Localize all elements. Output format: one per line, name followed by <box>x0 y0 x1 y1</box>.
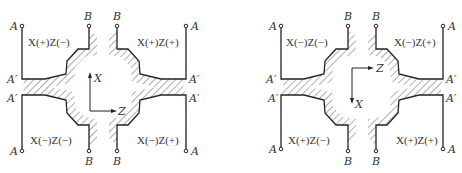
right-point-a-top-right <box>441 24 445 28</box>
left-quadrant-top-left: X(+)Z(−) <box>28 36 70 49</box>
right-x-arrow-icon <box>350 98 354 104</box>
left-point-b-bottom-right <box>115 149 119 153</box>
right-point-a-top-left <box>279 24 283 28</box>
right-label-b-top-right: B <box>371 10 380 23</box>
left-label-a-prime-top-right: A′ <box>188 73 200 86</box>
left-label-a-prime-top-left: A′ <box>6 73 18 86</box>
right-point-b-bottom-left <box>346 149 350 153</box>
left-axis-label-z: Z <box>117 105 126 118</box>
right-label-a-prime-top-right: A′ <box>445 73 457 86</box>
left-label-a-bottom-right: A <box>190 145 199 158</box>
left-label-a-top-right: A <box>190 20 199 33</box>
left-quadrant-top-right: X(+)Z(+) <box>137 36 179 49</box>
right-label-a-prime-bottom-left: A′ <box>267 92 279 105</box>
left-axis-label-x: X <box>93 72 103 85</box>
left-label-b-top-left: B <box>83 10 92 23</box>
right-quadrant-top-right: X(−)Z(+) <box>394 36 436 49</box>
left-point-a-bottom-right <box>184 149 188 153</box>
left-point-a-top-right <box>184 24 188 28</box>
left-point-b-top-left <box>87 24 91 28</box>
left-quadrant-bottom-left: X(−)Z(−) <box>30 134 72 147</box>
left-point-a-bottom-left <box>20 149 24 153</box>
right-label-a-top-left: A <box>268 20 277 33</box>
left-axes: X Z <box>88 72 126 118</box>
right-label-a-top-right: A <box>447 20 456 33</box>
left-quadrant-bottom-right: X(−)Z(+) <box>137 134 179 147</box>
left-z-arrow-icon <box>111 109 117 113</box>
right-point-a-bottom-left <box>279 147 283 151</box>
left-label-b-top-right: B <box>112 10 121 23</box>
tool-path-figure: A B B A A′ A′ A′ A′ A B B A X(+)Z(−) X(+… <box>0 0 462 173</box>
right-point-a-bottom-right <box>441 147 445 151</box>
left-label-b-bottom-right: B <box>112 155 121 168</box>
left-label-b-bottom-left: B <box>84 155 93 168</box>
right-label-a-prime-bottom-right: A′ <box>445 92 457 105</box>
left-diagram: A B B A A′ A′ A′ A′ A B B A X(+)Z(−) X(+… <box>6 10 200 168</box>
right-label-b-bottom-right: B <box>371 155 380 168</box>
right-quadrant-bottom-right: X(+)Z(+) <box>396 134 438 147</box>
left-point-b-bottom-left <box>87 149 91 153</box>
right-quadrant-bottom-left: X(+)Z(−) <box>288 134 330 147</box>
right-label-b-bottom-left: B <box>343 155 352 168</box>
right-label-b-top-left: B <box>343 10 352 23</box>
left-x-arrow-icon <box>88 72 92 78</box>
left-label-a-top-left: A <box>9 20 18 33</box>
left-point-a-top-left <box>20 24 24 28</box>
right-quadrant-top-left: X(−)Z(−) <box>286 36 328 49</box>
right-label-a-prime-top-left: A′ <box>265 73 277 86</box>
right-point-b-top-right <box>374 24 378 28</box>
left-label-a-prime-bottom-left: A′ <box>6 92 18 105</box>
right-axis-label-x: X <box>354 98 364 111</box>
left-label-a-prime-bottom-right: A′ <box>188 92 200 105</box>
right-point-b-top-left <box>346 24 350 28</box>
right-diagram: A B B A A′ A′ A′ A′ A B B A X(−)Z(−) X(−… <box>265 10 457 168</box>
right-z-arrow-icon <box>368 66 374 70</box>
right-label-a-bottom-right: A <box>447 143 456 156</box>
left-point-b-top-right <box>115 24 119 28</box>
right-label-a-bottom-left: A <box>268 143 277 156</box>
right-axes: Z X <box>350 62 384 111</box>
left-label-a-bottom-left: A <box>9 145 18 158</box>
right-axis-label-z: Z <box>375 62 384 75</box>
right-point-b-bottom-right <box>374 149 378 153</box>
